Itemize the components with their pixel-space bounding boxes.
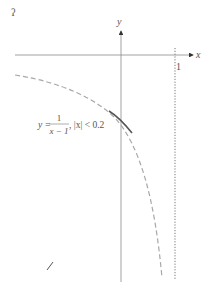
equation-condition: , |x| < 0.2	[69, 120, 105, 130]
fraction-denominator: x − 1	[48, 126, 68, 136]
curve-highlight-segment	[109, 111, 132, 133]
corner-mark: ʔ	[11, 7, 16, 18]
x-axis-label: x	[195, 49, 201, 60]
fraction-numerator: 1	[57, 113, 62, 123]
asymptote-label: 1	[176, 61, 181, 72]
function-graph: ʔ x y 1 y = 1 x − 1 , |x| < 0.2	[0, 0, 203, 291]
curve-dashed	[15, 75, 162, 278]
equation-label: y = 1 x − 1 , |x| < 0.2	[37, 113, 105, 136]
stray-mark	[47, 262, 53, 270]
y-axis-label: y	[116, 16, 122, 27]
